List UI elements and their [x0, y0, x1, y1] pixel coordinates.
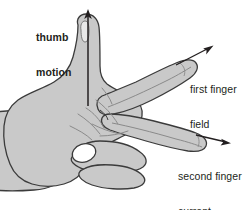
label-thumb-line2: motion [36, 67, 72, 79]
hand-shape-group [0, 14, 207, 191]
label-first-finger-line1: first finger [190, 84, 237, 96]
label-second-finger-line1: second finger [178, 171, 242, 183]
label-second-finger-line2: current [178, 206, 242, 211]
label-first-finger-field: first finger field [190, 61, 237, 153]
label-first-finger-line2: field [190, 119, 237, 131]
label-second-finger-current: second finger current [178, 148, 242, 210]
label-thumb-motion: thumb motion [36, 9, 72, 101]
label-thumb-line1: thumb [36, 32, 72, 44]
diagram-page: thumb motion first finger field second f… [0, 0, 251, 210]
